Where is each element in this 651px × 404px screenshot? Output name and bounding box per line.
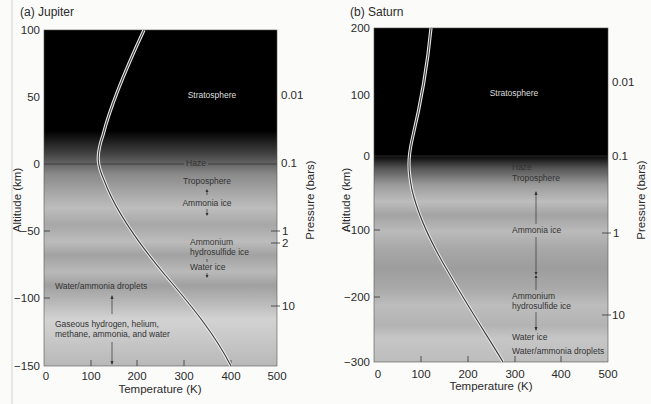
svg-text:0: 0	[364, 150, 370, 162]
saturn-pressure-axis-title: Pressure (bars)	[635, 160, 647, 239]
svg-text:500: 500	[598, 368, 617, 380]
label-troposphere: Troposphere	[183, 176, 231, 186]
svg-text:−150: −150	[14, 360, 40, 372]
svg-text:200: 200	[127, 370, 146, 382]
jupiter-pressure-axis-title: Pressure (bars)	[304, 160, 316, 239]
svg-text:0.01: 0.01	[612, 76, 634, 88]
svg-text:400: 400	[551, 368, 570, 380]
svg-text:500: 500	[267, 370, 286, 382]
svg-text:−200: −200	[344, 291, 370, 303]
label-ammonia-ice: Ammonia ice	[512, 225, 561, 235]
svg-text:400: 400	[221, 370, 240, 382]
saturn-x-axis-title: Temperature (K)	[449, 380, 532, 392]
label-haze: Haze	[186, 158, 206, 168]
label-hydrosulfide-ice: hydrosulfide ice	[190, 247, 249, 257]
svg-text:100: 100	[81, 370, 100, 382]
label-troposphere: Troposphere	[512, 173, 560, 183]
svg-text:−50: −50	[20, 225, 40, 237]
jupiter-x-axis-title: Temperature (K)	[118, 383, 201, 395]
svg-text:0.1: 0.1	[281, 157, 297, 169]
label-water-ice: Water ice	[512, 332, 548, 342]
label-gaseous-1: Gaseous hydrogen, helium,	[55, 319, 159, 329]
jupiter-title: (a) Jupiter	[20, 5, 74, 19]
saturn-y-axis-title: Altitude (km)	[340, 168, 352, 233]
jupiter-plot-area	[44, 30, 277, 366]
label-water-ammonia-droplets: Water/ammonia droplets	[55, 281, 147, 291]
svg-text:0: 0	[43, 370, 49, 382]
svg-text:−300: −300	[344, 356, 370, 368]
label-hydrosulfide-ice: hydrosulfide ice	[512, 301, 571, 311]
figure: (a) Jupiter 100 50 0 −50 −100 −150 0 100…	[0, 0, 651, 404]
label-gaseous-2: methane, ammonia, and water	[55, 329, 170, 339]
svg-text:200: 200	[351, 22, 370, 34]
saturn-title: (b) Saturn	[350, 5, 403, 19]
svg-text:0: 0	[375, 368, 381, 380]
svg-text:10: 10	[612, 309, 625, 321]
saturn-plot-area	[374, 28, 608, 362]
saturn-panel: (b) Saturn 200 100 0 −100 −200 −300 0 10…	[340, 5, 647, 392]
label-water-ice: Water ice	[190, 262, 226, 272]
svg-text:200: 200	[458, 368, 477, 380]
svg-text:0: 0	[34, 158, 40, 170]
svg-text:1: 1	[613, 227, 619, 239]
svg-text:100: 100	[411, 368, 430, 380]
svg-text:2: 2	[282, 237, 288, 249]
label-stratosphere: Stratosphere	[188, 90, 237, 100]
label-haze: Haze	[512, 162, 532, 172]
svg-text:0.1: 0.1	[612, 150, 628, 162]
jupiter-panel: (a) Jupiter 100 50 0 −50 −100 −150 0 100…	[11, 5, 316, 395]
label-ammonium: Ammonium	[190, 237, 233, 247]
svg-text:0.01: 0.01	[281, 89, 303, 101]
svg-text:100: 100	[21, 24, 40, 36]
label-ammonia-ice: Ammonia ice	[182, 198, 231, 208]
label-stratosphere: Stratosphere	[490, 88, 539, 98]
svg-text:300: 300	[174, 370, 193, 382]
svg-text:−100: −100	[14, 292, 40, 304]
label-ammonium: Ammonium	[512, 291, 555, 301]
svg-text:10: 10	[282, 300, 295, 312]
svg-text:300: 300	[505, 368, 524, 380]
svg-text:100: 100	[351, 89, 370, 101]
svg-text:50: 50	[27, 91, 40, 103]
label-water-ammonia-droplets: Water/ammonia droplets	[512, 346, 604, 356]
jupiter-y-axis-title: Altitude (km)	[11, 168, 23, 233]
svg-text:1: 1	[282, 225, 288, 237]
